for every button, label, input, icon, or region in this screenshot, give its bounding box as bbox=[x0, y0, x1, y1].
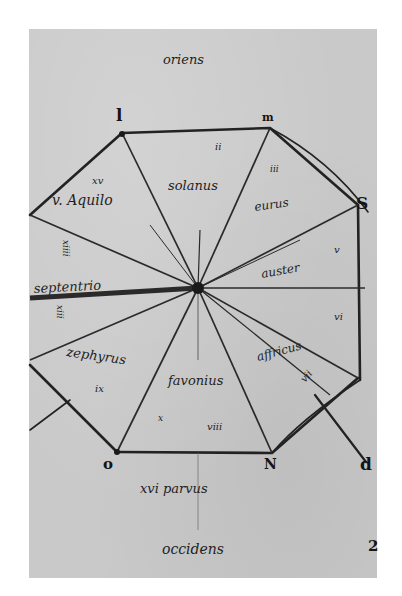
vertex-d: d bbox=[360, 454, 372, 474]
sector-lower-left-label: zephyrus bbox=[65, 344, 128, 367]
sector-left-vertical-upper: xiiii bbox=[61, 240, 71, 257]
vertex-s: S bbox=[356, 193, 368, 213]
vertex-l: l bbox=[116, 105, 123, 125]
wind-diagram: oriens occidens l m S o N d 2 ii solanus… bbox=[0, 0, 402, 596]
sector-bottom-edge: xvi parvus bbox=[140, 481, 208, 496]
sector-upper-right-numeral: iii bbox=[270, 164, 279, 174]
sector-upper-left-numeral: xv bbox=[92, 175, 104, 186]
sector-upper-right-label: eurus bbox=[253, 195, 289, 214]
label-occidens: occidens bbox=[162, 541, 224, 557]
sector-upper-left-label: v. Aquilo bbox=[52, 192, 113, 208]
sector-bottom-numeral: x bbox=[158, 413, 163, 423]
sector-bottom-label: favonius bbox=[167, 373, 224, 388]
margin-2: 2 bbox=[368, 537, 378, 555]
center-hub bbox=[192, 282, 204, 294]
sector-bottom-sub: viii bbox=[207, 421, 222, 432]
label-oriens: oriens bbox=[163, 52, 204, 67]
vertex-n: N bbox=[264, 456, 277, 472]
sector-right-numeral-lower: vi bbox=[334, 311, 343, 322]
sector-right-numeral-upper: v bbox=[334, 244, 340, 255]
vertex-o: o bbox=[103, 455, 113, 473]
sector-left-vertical-lower: xiii bbox=[55, 305, 65, 319]
sector-lower-left-numeral: ix bbox=[95, 383, 104, 394]
vertex-m: m bbox=[262, 111, 274, 124]
sector-top-label: solanus bbox=[168, 178, 218, 193]
sector-right-label: auster bbox=[260, 260, 302, 281]
sector-top-numeral: ii bbox=[215, 141, 221, 152]
sector-lower-right-label: affricus bbox=[255, 339, 303, 364]
